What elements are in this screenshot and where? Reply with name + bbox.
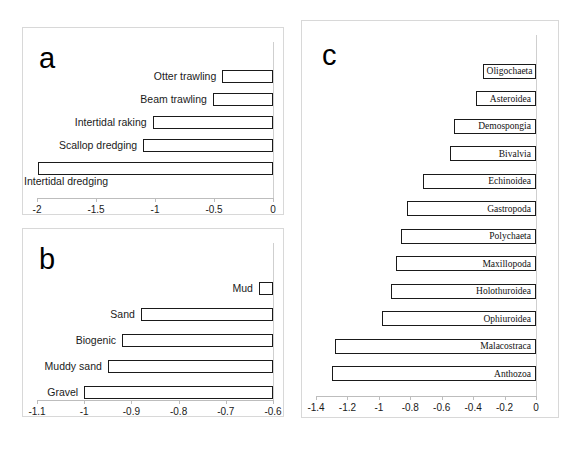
a-axis-tick-label: -1	[151, 204, 160, 215]
bar-label-a-0: Otter trawling	[154, 70, 216, 82]
bar-b-1	[141, 308, 273, 321]
bar-label-c-1: Asteroidea	[480, 94, 531, 104]
bar-label-c-3: Bivalvia	[454, 149, 531, 159]
bar-label-c-7: Maxillopoda	[400, 259, 531, 269]
b-axis-tick	[84, 400, 85, 404]
c-axis-tick-label: -1.2	[339, 402, 356, 413]
c-axis-tick-label: -0.4	[465, 402, 482, 413]
bar-label-c-10: Malacostraca	[339, 341, 531, 351]
b-axis-tick-label: -0.6	[264, 406, 281, 417]
b-axis-tick-label: -1.1	[28, 406, 45, 417]
b-axis-tick-label: -0.7	[217, 406, 234, 417]
c-axis-tick	[505, 396, 506, 400]
panel-b-letter: b	[39, 245, 55, 274]
bar-label-a-3: Scallop dredging	[59, 139, 137, 151]
bar-a-1	[213, 93, 273, 106]
panel-c: c -1.4-1.2-1-0.8-0.6-0.4-0.20Oligochaeta…	[301, 20, 559, 418]
bar-b-4	[84, 386, 273, 399]
bar-label-b-2: Biogenic	[76, 334, 116, 346]
bar-label-b-0: Mud	[232, 282, 252, 294]
c-axis-tick	[536, 396, 537, 400]
a-axis-tick-label: -1.5	[87, 204, 104, 215]
bar-a-2	[153, 116, 273, 129]
a-axis-tick	[214, 198, 215, 202]
b-axis-tick-label: -1	[80, 406, 89, 417]
bar-label-c-9: Ophiuroidea	[386, 314, 531, 324]
a-axis-tick-label: -2	[33, 204, 42, 215]
b-axis-tick-label: -0.9	[123, 406, 140, 417]
bar-b-2	[122, 334, 273, 347]
a-axis-tick	[273, 198, 274, 202]
b-axis-tick-label: -0.8	[170, 406, 187, 417]
bar-label-c-0: Oligochaeta	[487, 66, 531, 76]
bar-label-a-2: Intertidal raking	[75, 116, 147, 128]
bar-label-b-4: Gravel	[47, 386, 78, 398]
a-axis-tick	[37, 198, 38, 202]
bar-label-c-2: Demospongia	[458, 121, 531, 131]
bar-b-0	[259, 282, 273, 295]
bar-label-c-8: Holothuroidea	[395, 286, 531, 296]
b-axis-horizontal-line	[37, 400, 274, 401]
c-axis-tick	[347, 396, 348, 400]
a-axis-vertical-line	[273, 42, 274, 198]
c-axis-vertical-line	[536, 35, 537, 396]
panel-a-letter: a	[39, 44, 55, 73]
bar-b-3	[108, 360, 273, 373]
c-axis-tick-label: -0.8	[402, 402, 419, 413]
c-axis-tick	[316, 396, 317, 400]
b-axis-tick	[179, 400, 180, 404]
bar-label-c-6: Polychaeta	[405, 231, 531, 241]
bar-label-a-1: Beam trawling	[140, 93, 207, 105]
c-axis-tick	[473, 396, 474, 400]
b-axis-vertical-line	[273, 243, 274, 400]
c-axis-tick-label: -0.2	[496, 402, 513, 413]
b-axis-tick	[131, 400, 132, 404]
bar-label-c-4: Echinoidea	[427, 176, 531, 186]
bar-label-c-5: Gastropoda	[411, 204, 531, 214]
panel-a: a -2-1.5-1-0.50Otter trawlingBeam trawli…	[22, 27, 284, 215]
bar-a-0	[222, 70, 273, 83]
b-axis-tick	[226, 400, 227, 404]
c-axis-tick	[410, 396, 411, 400]
c-axis-tick	[442, 396, 443, 400]
figure-canvas: a -2-1.5-1-0.50Otter trawlingBeam trawli…	[0, 0, 570, 474]
b-axis-tick	[37, 400, 38, 404]
bar-label-b-3: Muddy sand	[45, 360, 102, 372]
bar-label-a-4: Intertidal dredging	[24, 175, 108, 187]
c-axis-tick-label: -1.4	[307, 402, 324, 413]
panel-b: b -1.1-1-0.9-0.8-0.7-0.6MudSandBiogenicM…	[22, 228, 284, 417]
panel-c-letter: c	[322, 41, 337, 70]
a-axis-tick	[96, 198, 97, 202]
bar-label-b-1: Sand	[110, 308, 135, 320]
b-axis-tick	[273, 400, 274, 404]
c-axis-tick	[379, 396, 380, 400]
c-axis-tick-label: -0.6	[433, 402, 450, 413]
c-axis-tick-label: -1	[374, 402, 383, 413]
bar-a-3	[143, 139, 273, 152]
bar-a-4	[38, 162, 273, 175]
a-axis-tick	[155, 198, 156, 202]
a-axis-tick-label: 0	[270, 204, 276, 215]
bar-label-c-11: Anthozoa	[336, 369, 531, 379]
a-axis-tick-label: -0.5	[205, 204, 222, 215]
c-axis-tick-label: 0	[533, 402, 539, 413]
